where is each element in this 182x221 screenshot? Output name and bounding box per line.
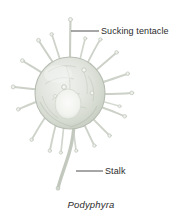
cell-body xyxy=(35,57,105,129)
figure-caption: Podyphyra xyxy=(0,199,182,210)
label-stalk: Stalk xyxy=(105,166,126,176)
stalk-structure xyxy=(56,126,74,190)
granule xyxy=(82,68,86,72)
tentacle xyxy=(100,72,130,83)
tentacle xyxy=(102,91,134,95)
granule xyxy=(90,91,94,95)
granule xyxy=(62,85,67,90)
label-sucking-tentacle: Sucking tentacle xyxy=(101,26,169,36)
granule xyxy=(54,95,57,98)
podyphyra-figure: Sucking tentacle Stalk Podyphyra xyxy=(0,0,182,221)
tentacle xyxy=(94,51,118,72)
nucleus xyxy=(55,89,81,119)
